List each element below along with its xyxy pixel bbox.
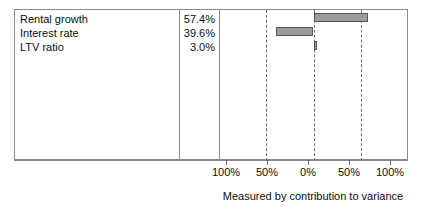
row-value-rental-growth: 57.4%: [179, 12, 215, 26]
row-label-rental-growth: Rental growth: [20, 12, 170, 26]
chart-frame: Rental growth 57.4% Interest rate 39.6% …: [14, 9, 408, 160]
table-row: LTV ratio 3.0%: [15, 40, 407, 54]
table-row: Interest rate 39.6%: [15, 26, 407, 40]
row-value-ltv-ratio: 3.0%: [179, 40, 215, 54]
axis-label-plus100: 100%: [360, 166, 420, 178]
row-label-interest-rate: Interest rate: [20, 26, 170, 40]
axis-tick-plus50: [349, 160, 350, 165]
row-list: Rental growth 57.4% Interest rate 39.6% …: [15, 10, 407, 159]
axis-tick-plus100: [390, 160, 391, 165]
axis-tick-minus100: [226, 160, 227, 165]
tornado-chart: Rental growth 57.4% Interest rate 39.6% …: [0, 0, 433, 214]
axis-tick-zero: [308, 160, 309, 165]
axis-caption: Measured by contribution to variance: [218, 190, 408, 202]
row-label-ltv-ratio: LTV ratio: [20, 40, 170, 54]
row-value-interest-rate: 39.6%: [179, 26, 215, 40]
table-row: Rental growth 57.4%: [15, 12, 407, 26]
axis-tick-minus50: [267, 160, 268, 165]
